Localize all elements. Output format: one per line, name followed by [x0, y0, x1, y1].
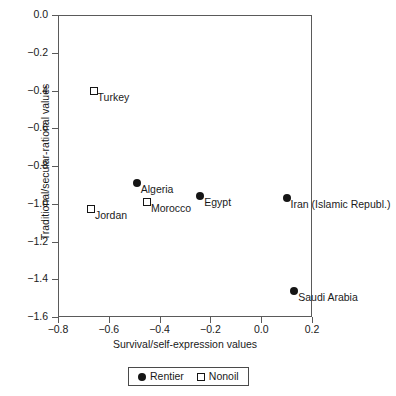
y-tick-mark [52, 279, 58, 280]
data-point-jordan [87, 205, 95, 213]
y-tick-mark [52, 204, 58, 205]
y-tick-mark [52, 128, 58, 129]
data-point-morocco [143, 198, 151, 206]
data-point-iran-islamic-republ [283, 194, 291, 202]
y-tick-mark [52, 15, 58, 16]
legend-entry-nonoil: Nonoil [197, 371, 239, 382]
x-tick-label: 0.2 [290, 324, 334, 335]
data-point-label: Turkey [98, 92, 130, 103]
legend-label: Rentier [150, 371, 184, 382]
x-tick-label: −0.4 [138, 324, 182, 335]
data-point-saudi-arabia [290, 287, 298, 295]
open-square-icon [197, 373, 205, 381]
x-axis-title: Survival/self-expression values [58, 338, 312, 350]
data-point-label: Egypt [204, 197, 231, 208]
filled-circle-icon [138, 373, 146, 381]
y-tick-mark [52, 242, 58, 243]
y-axis-title: Traditional/secular-rational values [39, 7, 51, 317]
y-tick-mark [52, 91, 58, 92]
legend-entry-rentier: Rentier [138, 371, 184, 382]
data-point-algeria [133, 179, 141, 187]
chart-legend: RentierNonoil [128, 367, 249, 386]
data-point-label: Saudi Arabia [298, 292, 358, 303]
y-tick-mark [52, 53, 58, 54]
data-point-label: Morocco [151, 203, 191, 214]
data-point-label: Jordan [95, 210, 127, 221]
x-tick-label: −0.6 [87, 324, 131, 335]
y-tick-mark [52, 166, 58, 167]
x-tick-label: 0.0 [239, 324, 283, 335]
data-point-label: Iran (Islamic Republ.) [291, 199, 391, 210]
data-point-label: Algeria [141, 184, 174, 195]
data-point-turkey [90, 87, 98, 95]
x-tick-label: −0.2 [188, 324, 232, 335]
x-tick-label: −0.8 [36, 324, 80, 335]
legend-label: Nonoil [209, 371, 239, 382]
plot-area-frame [58, 15, 312, 317]
scatter-chart-figure: 0.0−0.2−0.4−0.6−0.8−1.0−1.2−1.4−1.6 −0.8… [0, 0, 396, 396]
